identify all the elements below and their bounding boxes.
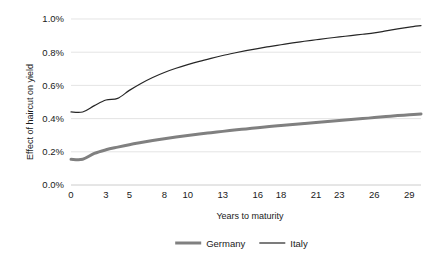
x-tick-label: 29: [404, 189, 415, 200]
y-tick-label: 0.8%: [42, 47, 64, 58]
y-tick-label: 1.0%: [42, 13, 64, 24]
x-tick-label: 5: [127, 189, 132, 200]
x-axis-tick-labels: 03581013161821232629: [68, 189, 414, 200]
x-tick-label: 26: [369, 189, 380, 200]
x-tick-label: 18: [276, 189, 287, 200]
chart-legend: GermanyItaly: [175, 238, 308, 249]
y-tick-label: 0.2%: [42, 146, 64, 157]
legend-item-germany[interactable]: Germany: [175, 238, 245, 249]
x-tick-label: 0: [68, 189, 73, 200]
legend-label-germany: Germany: [206, 238, 245, 249]
x-tick-label: 16: [252, 189, 263, 200]
series-line-italy: [71, 26, 421, 113]
series-line-germany: [71, 114, 421, 160]
x-tick-label: 23: [334, 189, 345, 200]
x-tick-label: 10: [182, 189, 193, 200]
y-axis-tick-labels: 0.0%0.2%0.4%0.6%0.8%1.0%: [42, 13, 64, 190]
x-axis-title: Years to maturity: [216, 211, 284, 221]
x-tick-label: 13: [217, 189, 228, 200]
y-axis-title: Effect of haircut on yield: [25, 64, 35, 160]
gridlines: [71, 19, 421, 185]
y-tick-label: 0.4%: [42, 113, 64, 124]
line-chart: 0.0%0.2%0.4%0.6%0.8%1.0% 035810131618212…: [0, 0, 431, 261]
chart-container: 0.0%0.2%0.4%0.6%0.8%1.0% 035810131618212…: [0, 0, 431, 261]
x-tick-label: 8: [162, 189, 167, 200]
legend-label-italy: Italy: [290, 238, 308, 249]
data-series: [71, 26, 421, 160]
x-tick-label: 3: [103, 189, 108, 200]
y-tick-label: 0.0%: [42, 179, 64, 190]
x-tick-label: 21: [311, 189, 322, 200]
legend-item-italy[interactable]: Italy: [259, 238, 308, 249]
y-tick-label: 0.6%: [42, 80, 64, 91]
